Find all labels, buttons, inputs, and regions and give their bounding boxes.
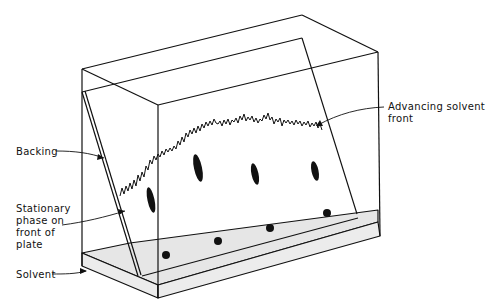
solvent-front-line xyxy=(120,113,322,196)
developed-spot-4 xyxy=(309,160,320,181)
label-stationary-phase: Stationary phase on front of plate xyxy=(16,203,71,251)
developed-spot-1 xyxy=(145,187,157,214)
label-solvent: Solvent xyxy=(16,269,56,281)
label-line: plate xyxy=(16,239,71,251)
label-line: phase on xyxy=(16,215,71,227)
origin-spot-3 xyxy=(266,224,274,232)
developed-spot-2 xyxy=(191,153,205,182)
origin-spot-2 xyxy=(214,237,222,245)
label-line: Advancing solvent xyxy=(388,101,485,113)
developed-spots xyxy=(145,153,321,213)
tank-top-back xyxy=(82,15,302,69)
developed-spot-3 xyxy=(249,163,260,186)
label-line: Stationary xyxy=(16,203,71,215)
plate-top-edge xyxy=(82,38,302,92)
backing-leader xyxy=(56,151,104,158)
label-backing: Backing xyxy=(16,146,58,158)
origin-spot-4 xyxy=(323,209,331,217)
label-line: front of xyxy=(16,227,71,239)
stationary-leader xyxy=(62,211,125,225)
origin-spot-1 xyxy=(162,251,170,259)
label-solvent-front: Advancing solvent front xyxy=(388,101,485,125)
tlc-tank-diagram xyxy=(0,0,492,306)
label-line: front xyxy=(388,113,485,125)
